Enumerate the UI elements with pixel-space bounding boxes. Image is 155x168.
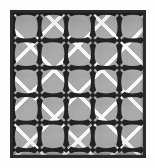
border-frame — [10, 10, 146, 158]
diamond-shading — [13, 13, 143, 155]
pattern-swatch-image: Square swatch of a repeating geometric p… — [0, 0, 155, 168]
pattern-field — [13, 13, 143, 155]
image-alt-text: Square swatch of a repeating geometric p… — [0, 0, 1, 1]
lattice-lines-backward — [13, 13, 143, 155]
scan-vignette — [13, 13, 143, 155]
lattice-lines-forward — [13, 13, 143, 155]
bone-motif-layer — [13, 13, 143, 155]
